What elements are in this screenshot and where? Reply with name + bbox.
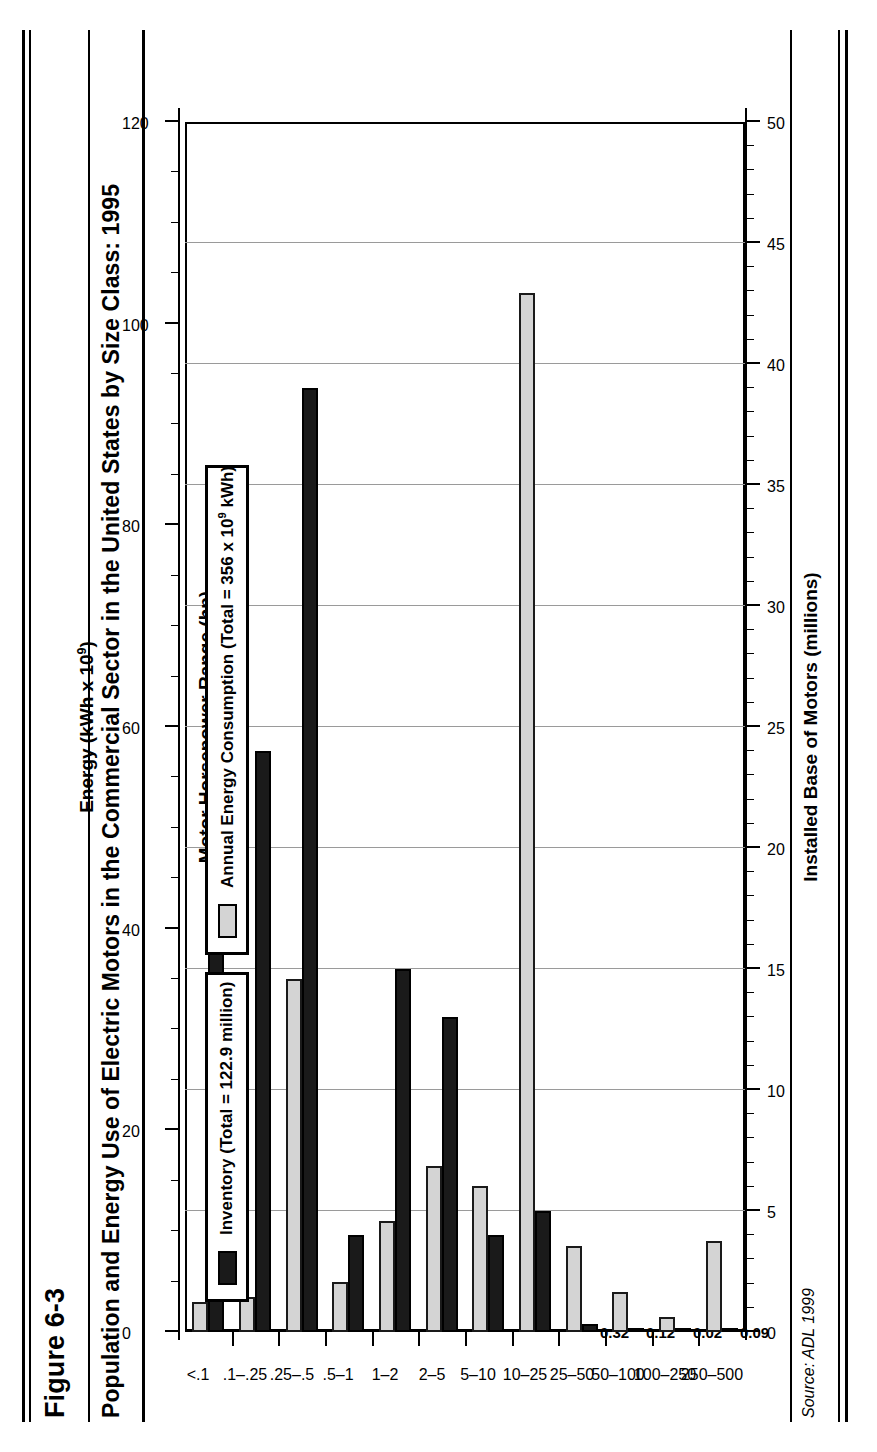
inventory-axis-minor-tick xyxy=(747,992,754,993)
legend-inventory: Inventory (Total = 122.9 million) xyxy=(205,972,249,1302)
category-label: .1–.25 xyxy=(223,1366,267,1384)
figure-page: Figure 6-3 Population and Energy Use of … xyxy=(0,0,877,1452)
top-inner-rule xyxy=(29,30,31,1422)
inventory-axis-minor-tick xyxy=(747,1113,754,1114)
inventory-axis-tick xyxy=(747,967,760,969)
plot-area: 0.320.120.020.09 xyxy=(185,122,745,1332)
bar-inventory xyxy=(582,1324,598,1332)
inventory-axis-minor-tick xyxy=(747,508,754,509)
gridline xyxy=(185,726,745,727)
energy-axis-tick xyxy=(165,322,178,324)
figure-number: Figure 6-3 xyxy=(40,1288,71,1418)
energy-axis-minor-tick xyxy=(171,424,178,425)
category-separator-tick xyxy=(278,1332,280,1346)
inventory-axis-minor-tick xyxy=(747,169,754,170)
inventory-axis-minor-tick xyxy=(747,339,754,340)
gridline xyxy=(185,363,745,364)
inventory-axis-minor-tick xyxy=(747,871,754,872)
energy-axis-minor-tick xyxy=(171,676,178,677)
inventory-axis-minor-tick xyxy=(747,702,754,703)
category-separator-tick xyxy=(418,1332,420,1346)
inventory-axis-minor-tick xyxy=(747,1283,754,1284)
inventory-axis-minor-tick xyxy=(747,1186,754,1187)
inventory-axis-minor-tick xyxy=(747,315,754,316)
inventory-axis-tick-label: 5 xyxy=(767,1204,776,1222)
inventory-axis-tick-label: 20 xyxy=(767,841,785,859)
inventory-axis-tick-label: 35 xyxy=(767,478,785,496)
inventory-axis-tick xyxy=(747,846,760,848)
energy-axis-tick xyxy=(165,1128,178,1130)
category-separator-tick xyxy=(605,1332,607,1346)
energy-axis-minor-tick xyxy=(171,474,178,475)
energy-axis-minor-tick xyxy=(171,272,178,273)
bar-inventory xyxy=(255,751,271,1332)
energy-axis-tick xyxy=(165,927,178,929)
category-label: 10–25 xyxy=(503,1366,548,1384)
legend-energy: Annual Energy Consumption (Total = 356 x… xyxy=(205,465,249,955)
category-label: 5–10 xyxy=(461,1366,497,1384)
inventory-axis-minor-tick xyxy=(747,218,754,219)
inventory-axis-rail xyxy=(745,108,747,1340)
category-separator-tick xyxy=(512,1332,514,1346)
bar-inventory xyxy=(675,1328,691,1332)
energy-axis-minor-tick xyxy=(171,827,178,828)
bottom-inner-rule xyxy=(838,30,840,1422)
energy-axis-minor-tick xyxy=(171,222,178,223)
energy-axis-title-exponent: 9 xyxy=(75,647,89,654)
bar-inventory xyxy=(302,388,318,1332)
bar-inventory xyxy=(395,969,411,1332)
category-label: 25–50 xyxy=(549,1366,594,1384)
legend-energy-exponent: 9 xyxy=(216,512,228,518)
figure-container: Figure 6-3 Population and Energy Use of … xyxy=(0,0,877,1452)
category-separator-tick xyxy=(698,1332,700,1346)
inventory-axis-tick xyxy=(747,1088,760,1090)
gridline xyxy=(185,242,745,243)
energy-axis-minor-tick xyxy=(171,1029,178,1030)
bar-inventory xyxy=(442,1017,458,1332)
inventory-axis-minor-tick xyxy=(747,823,754,824)
inventory-axis-tick xyxy=(747,1209,760,1211)
energy-axis-tick-label: 60 xyxy=(122,720,140,738)
inventory-axis-title: Installed Base of Motors (millions) xyxy=(800,122,822,1332)
inventory-axis-minor-tick xyxy=(747,1016,754,1017)
energy-axis-minor-tick xyxy=(171,776,178,777)
inventory-axis-tick xyxy=(747,483,760,485)
energy-axis-minor-tick xyxy=(171,1079,178,1080)
gridline xyxy=(185,605,745,606)
inventory-axis-minor-tick xyxy=(747,1234,754,1235)
inventory-axis-minor-tick xyxy=(747,678,754,679)
inventory-axis-minor-tick xyxy=(747,194,754,195)
energy-axis-minor-tick xyxy=(171,575,178,576)
inventory-axis-minor-tick xyxy=(747,1041,754,1042)
legend-energy-label-tail: kWh) xyxy=(218,466,237,512)
inventory-axis-minor-tick xyxy=(747,411,754,412)
energy-axis: 020406080100120 xyxy=(120,122,185,1332)
energy-axis-rail xyxy=(178,108,180,1340)
bar-energy xyxy=(286,979,302,1332)
inventory-axis-tick-label: 25 xyxy=(767,720,785,738)
inventory-axis-tick xyxy=(747,725,760,727)
inventory-axis-minor-tick xyxy=(747,266,754,267)
inventory-axis-minor-tick xyxy=(747,1258,754,1259)
rotated-figure-wrapper: Figure 6-3 Population and Energy Use of … xyxy=(0,0,877,1452)
inventory-axis-minor-tick xyxy=(747,774,754,775)
top-outer-rule xyxy=(22,30,25,1422)
inventory-axis-tick-label: 45 xyxy=(767,236,785,254)
bar-energy xyxy=(379,1221,395,1332)
bar-inventory xyxy=(722,1328,738,1332)
energy-axis-title: Energy (kWh x 109) xyxy=(75,122,98,1332)
category-label: .5–1 xyxy=(323,1366,354,1384)
energy-axis-tick-label: 0 xyxy=(122,1325,131,1343)
energy-axis-minor-tick xyxy=(171,171,178,172)
category-label: <.1 xyxy=(187,1366,210,1384)
category-label: 1–2 xyxy=(372,1366,399,1384)
inventory-axis-minor-tick xyxy=(747,1162,754,1163)
category-label: 2–5 xyxy=(418,1366,445,1384)
energy-axis-tick xyxy=(165,725,178,727)
inventory-axis-tick xyxy=(747,241,760,243)
category-separator-tick xyxy=(232,1332,234,1346)
inventory-axis-minor-tick xyxy=(747,944,754,945)
energy-axis-minor-tick xyxy=(171,1230,178,1231)
bar-energy xyxy=(426,1166,442,1332)
category-label: 250–500 xyxy=(681,1366,743,1384)
